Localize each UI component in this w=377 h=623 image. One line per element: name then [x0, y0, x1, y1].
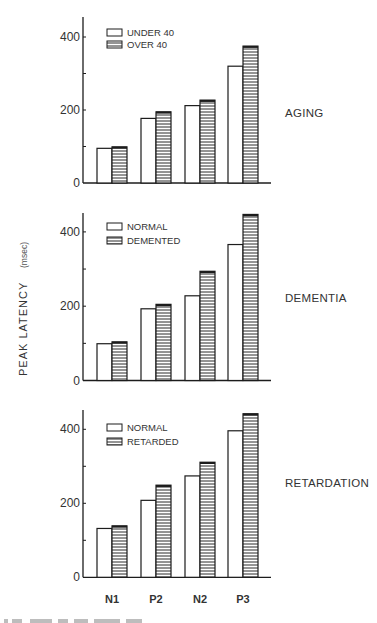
legend-swatch-open: [107, 223, 122, 230]
bar-p2-normal: [141, 309, 156, 381]
legend-swatch-hatched: [107, 237, 122, 244]
bar-n1-normal: [97, 344, 112, 381]
y-tick-label: 0: [73, 570, 80, 584]
category-label-n2: N2: [193, 593, 207, 605]
chart-panel-retardation: 0200400NORMALRETARDEDRETARDATION: [60, 410, 369, 584]
y-axis-label-text: PEAK LATENCY: [17, 282, 29, 376]
panel-label-retardation: RETARDATION: [285, 477, 369, 489]
y-tick-label: 0: [73, 374, 80, 388]
y-tick-label: 200: [60, 299, 80, 313]
caption-cutoff: [4, 619, 142, 623]
y-tick-label: 200: [60, 496, 80, 510]
legend-label: DEMENTED: [127, 235, 180, 246]
legend-label: NORMAL: [127, 221, 168, 232]
category-label-p2: P2: [149, 593, 162, 605]
bar-n2-over-40: [200, 100, 215, 183]
bar-n1-normal: [97, 528, 112, 577]
bar-n1-demented: [112, 342, 127, 381]
y-tick-label: 400: [60, 225, 80, 239]
bar-n2-retarded: [200, 462, 215, 577]
bar-p3-normal: [228, 245, 243, 381]
bar-p3-over-40: [243, 46, 258, 183]
bar-n1-retarded: [112, 526, 127, 577]
bar-p2-under-40: [141, 118, 156, 183]
bar-p3-normal: [228, 431, 243, 578]
legend-label: OVER 40: [127, 39, 167, 50]
legend-swatch-hatched: [107, 438, 122, 445]
bar-n2-normal: [185, 296, 200, 381]
bar-p2-retarded: [156, 485, 171, 577]
legend-label: UNDER 40: [127, 27, 174, 38]
bar-p3-demented: [243, 214, 258, 380]
y-tick-label: 0: [73, 176, 80, 190]
legend-label: RETARDED: [127, 436, 179, 447]
legend-swatch-open: [107, 29, 122, 36]
legend-swatch-hatched: [107, 41, 122, 48]
bar-n2-demented: [200, 271, 215, 380]
y-tick-label: 400: [60, 422, 80, 436]
chart-panel-dementia: 0200400NORMALDEMENTEDDEMENTIA: [60, 213, 347, 388]
bar-n2-normal: [185, 476, 200, 577]
y-axis-label: PEAK LATENCY (msec): [17, 242, 29, 376]
bar-n1-under-40: [97, 148, 112, 183]
panel-label-dementia: DEMENTIA: [285, 292, 347, 304]
bar-p2-over-40: [156, 112, 171, 183]
bar-n2-under-40: [185, 106, 200, 183]
bar-n1-over-40: [112, 147, 127, 183]
category-label-p3: P3: [236, 593, 249, 605]
category-label-n1: N1: [105, 593, 119, 605]
panel-label-aging: AGING: [285, 107, 324, 119]
bar-p2-normal: [141, 500, 156, 577]
bar-p2-demented: [156, 304, 171, 380]
x-category-labels: N1 P2 N2 P3: [105, 593, 250, 605]
y-tick-label: 400: [60, 30, 80, 44]
chart-panel-aging: 0200400UNDER 40OVER 40AGING: [60, 17, 324, 190]
bar-p3-retarded: [243, 414, 258, 578]
figure-canvas: 0200400UNDER 40OVER 40AGING0200400NORMAL…: [0, 0, 377, 623]
legend-label: NORMAL: [127, 422, 168, 433]
legend-swatch-open: [107, 424, 122, 431]
bar-p3-under-40: [228, 66, 243, 183]
y-tick-label: 200: [60, 103, 80, 117]
y-axis-unit-text: (msec): [19, 242, 29, 268]
